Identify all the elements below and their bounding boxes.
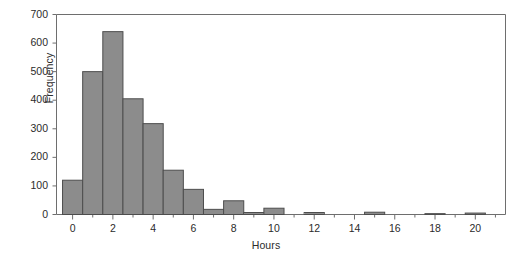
- histogram-bar: [365, 212, 385, 214]
- x-tick-label: 16: [375, 222, 415, 234]
- histogram-bar: [123, 99, 143, 215]
- x-tick-label: 10: [254, 222, 294, 234]
- histogram-bar: [103, 32, 123, 215]
- y-tick-label: 300: [10, 122, 48, 134]
- x-tick-label: 14: [334, 222, 374, 234]
- y-tick-label: 600: [10, 36, 48, 48]
- y-tick-label: 700: [10, 8, 48, 20]
- x-tick-label: 0: [53, 222, 93, 234]
- x-tick-label: 12: [294, 222, 334, 234]
- histogram-bar: [264, 208, 284, 214]
- y-tick-label: 0: [10, 208, 48, 220]
- histogram-bar: [83, 72, 103, 215]
- histogram-bar: [304, 213, 324, 215]
- bars-group: [63, 32, 486, 215]
- histogram-bar: [244, 213, 264, 215]
- y-tick-label: 400: [10, 93, 48, 105]
- histogram-bar: [63, 180, 83, 214]
- histogram-bar: [224, 201, 244, 215]
- y-tick-label: 500: [10, 65, 48, 77]
- x-tick-label: 18: [415, 222, 455, 234]
- histogram-figure: Frequency 0100200300400500600700 0246810…: [0, 0, 532, 258]
- y-tick-label: 100: [10, 179, 48, 191]
- histogram-bar: [183, 189, 203, 214]
- x-tick-label: 4: [133, 222, 173, 234]
- x-tick-label: 20: [455, 222, 495, 234]
- histogram-bar: [203, 209, 223, 214]
- y-tick-label: 200: [10, 150, 48, 162]
- histogram-bar: [143, 124, 163, 215]
- x-tick-label: 2: [93, 222, 133, 234]
- histogram-bar: [425, 214, 445, 215]
- x-tick-label: 8: [214, 222, 254, 234]
- histogram-bar: [163, 170, 183, 214]
- plot-canvas: [0, 0, 532, 258]
- x-axis-label: Hours: [0, 239, 532, 251]
- x-tick-label: 6: [173, 222, 213, 234]
- histogram-bar: [465, 213, 485, 214]
